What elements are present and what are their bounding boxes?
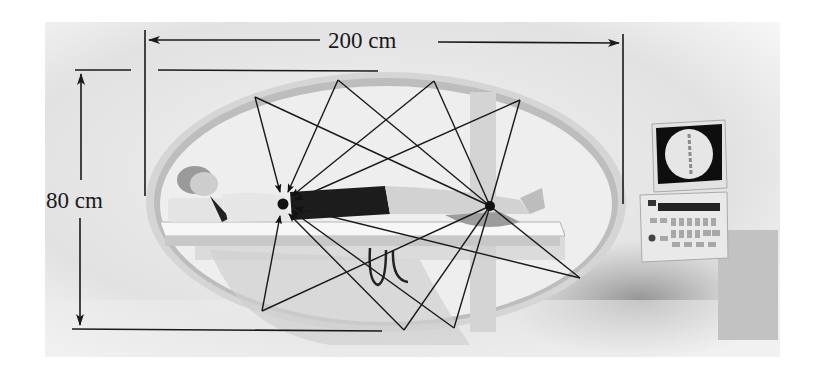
height-extension-top-b [158,70,378,71]
height-dimension-label: 80 cm [46,189,103,212]
diagram-canvas [0,0,819,376]
width-dimension-label: 200 cm [328,29,396,52]
console-display [658,203,720,211]
width-arrow-right [438,42,619,43]
left-focus-point [278,199,289,210]
right-focus-point [485,201,495,211]
scanner-diagram: 200 cm 80 cm [0,0,819,376]
